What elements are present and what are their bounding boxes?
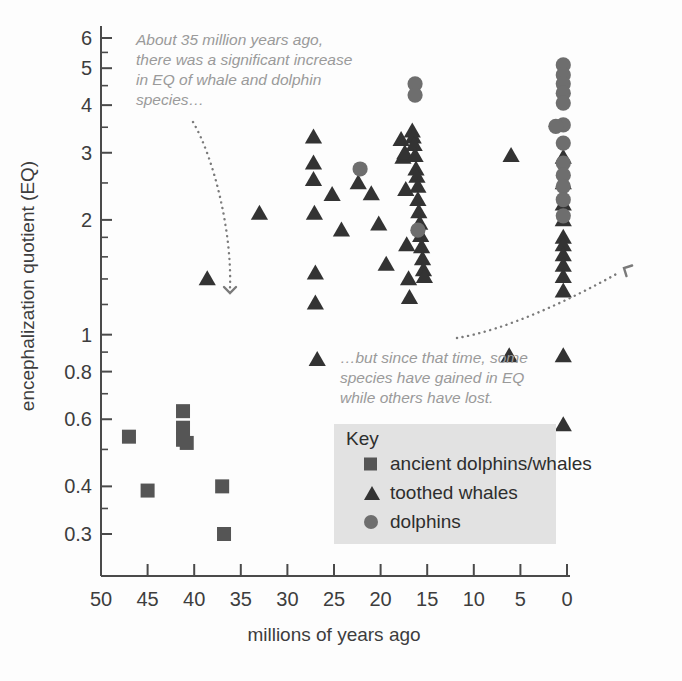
x-axis-title: millions of years ago — [247, 624, 420, 645]
y-tick-label: 0.6 — [64, 408, 92, 430]
data-point-circle — [556, 136, 571, 151]
x-tick-label: 20 — [369, 588, 391, 610]
legend-item-label: dolphins — [390, 510, 461, 534]
square-marker-icon — [364, 458, 377, 471]
data-point-circle — [556, 208, 571, 223]
data-point-triangle — [398, 236, 415, 251]
x-tick-label: 40 — [183, 588, 205, 610]
data-point-triangle — [370, 215, 387, 230]
data-point-triangle — [307, 294, 324, 309]
legend-item-toothed[interactable]: toothed whales — [364, 481, 518, 505]
data-point-triangle — [350, 174, 367, 189]
data-point-triangle — [309, 351, 326, 366]
y-tick-label: 5 — [81, 57, 92, 79]
data-point-square — [141, 484, 155, 498]
data-point-triangle — [305, 171, 322, 186]
data-point-triangle — [400, 270, 417, 285]
x-tick-label: 5 — [515, 588, 526, 610]
data-point-square — [215, 479, 229, 493]
data-point-triangle — [306, 205, 323, 220]
data-point-square — [122, 430, 136, 444]
data-point-circle — [410, 223, 425, 238]
y-tick-label: 2 — [81, 209, 92, 231]
y-tick-label: 3 — [81, 142, 92, 164]
annotation-arrow-late — [457, 272, 620, 338]
annotation-early-increase: About 35 million years ago, there was a … — [136, 30, 386, 110]
data-point-square — [217, 527, 231, 541]
data-point-triangle — [378, 256, 395, 271]
legend-item-dolphins[interactable]: dolphins — [364, 510, 461, 534]
data-point-triangle — [251, 205, 268, 220]
data-point-triangle — [333, 222, 350, 237]
x-tick-label: 0 — [561, 588, 572, 610]
data-point-circle — [556, 179, 571, 194]
data-point-square — [176, 404, 190, 418]
legend-item-label: ancient dolphins/whales — [390, 452, 592, 476]
x-tick-label: 35 — [230, 588, 252, 610]
data-point-square — [176, 421, 190, 435]
y-tick-label: 0.4 — [64, 475, 92, 497]
data-point-triangle — [199, 270, 216, 285]
x-tick-label: 10 — [463, 588, 485, 610]
legend-item-ancient[interactable]: ancient dolphins/whales — [364, 452, 592, 476]
y-tick-label: 4 — [81, 94, 92, 116]
x-tick-label: 25 — [323, 588, 345, 610]
data-point-triangle — [401, 289, 418, 304]
y-tick-label: 0.8 — [64, 361, 92, 383]
data-point-circle — [556, 95, 571, 110]
y-tick-label: 0.3 — [64, 523, 92, 545]
x-tick-label: 50 — [90, 588, 112, 610]
data-point-triangle — [324, 186, 341, 201]
x-tick-label: 15 — [416, 588, 438, 610]
circle-marker-icon — [364, 515, 378, 529]
legend-item-label: toothed whales — [390, 481, 518, 505]
data-point-circle — [352, 161, 367, 176]
data-point-circle — [556, 192, 571, 207]
y-tick-label: 1 — [81, 324, 92, 346]
data-point-triangle — [305, 154, 322, 169]
x-tick-label: 30 — [276, 588, 298, 610]
data-point-square — [180, 436, 194, 450]
annotation-later-divergence: …but since that time, some species have … — [340, 348, 570, 408]
data-point-triangle — [555, 283, 572, 298]
data-point-circle — [407, 87, 422, 102]
y-tick-label: 6 — [81, 27, 92, 49]
y-axis-title: encephalization quotient (EQ) — [17, 161, 38, 411]
annotation-arrow-early — [193, 122, 230, 288]
data-point-circle — [548, 119, 563, 134]
annotation-arrow-late-head — [621, 263, 632, 276]
triangle-marker-icon — [364, 486, 380, 500]
data-point-triangle — [555, 416, 572, 431]
chart-figure: 6543210.80.60.40.350454035302520151050 m… — [0, 0, 682, 681]
data-point-triangle — [307, 265, 324, 280]
data-point-triangle — [502, 147, 519, 162]
data-point-triangle — [305, 128, 322, 143]
x-tick-label: 45 — [136, 588, 158, 610]
legend-title: Key — [346, 428, 379, 450]
